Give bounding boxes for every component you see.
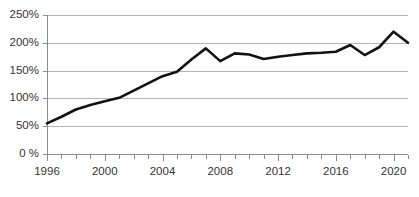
y-tick-label-50: 50% bbox=[16, 119, 39, 131]
y-tick-label-0: 0 % bbox=[19, 147, 39, 159]
x-axis-tick-labels: 1996200020042008201220162020 bbox=[34, 165, 406, 177]
x-axis bbox=[47, 155, 409, 161]
y-tick-label-150: 150% bbox=[10, 64, 39, 76]
y-tick-label-100: 100% bbox=[10, 91, 39, 103]
x-tick-label-2000: 2000 bbox=[92, 165, 118, 177]
x-tick-label-2012: 2012 bbox=[265, 165, 291, 177]
gridlines bbox=[47, 16, 408, 127]
data-series-line-value bbox=[47, 32, 408, 124]
x-tick-label-2016: 2016 bbox=[323, 165, 349, 177]
y-tick-label-200: 200% bbox=[10, 36, 39, 48]
x-tick-label-2020: 2020 bbox=[381, 165, 407, 177]
y-tick-label-250: 250% bbox=[10, 8, 39, 20]
x-tick-label-2008: 2008 bbox=[207, 165, 233, 177]
x-tick-label-2004: 2004 bbox=[150, 165, 176, 177]
line-chart: 250%200%150%100%50%0 % 19962000200420082… bbox=[0, 0, 419, 197]
x-tick-label-1996: 1996 bbox=[34, 165, 60, 177]
y-axis bbox=[43, 15, 48, 161]
chart-canvas: 250%200%150%100%50%0 % 19962000200420082… bbox=[0, 0, 419, 197]
y-axis-tick-labels: 250%200%150%100%50%0 % bbox=[10, 8, 39, 159]
data-series bbox=[47, 32, 408, 124]
